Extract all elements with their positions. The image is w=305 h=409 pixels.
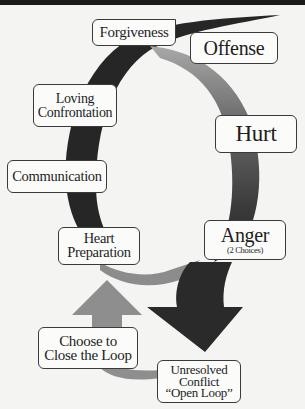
node-label-line: “Open Loop” xyxy=(165,387,232,399)
node-label-line: Confrontation xyxy=(38,106,113,119)
node-unresolved-conflict: Unresolved Conflict “Open Loop” xyxy=(157,360,241,403)
node-label-line: Choose to xyxy=(59,334,117,348)
node-heart-preparation: Heart Preparation xyxy=(58,227,140,265)
node-forgiveness: Forgiveness xyxy=(92,19,176,46)
node-label: Anger xyxy=(221,226,269,245)
node-label: Hurt xyxy=(236,123,277,145)
node-label: Offense xyxy=(204,39,265,58)
node-label-line: Loving xyxy=(56,92,95,105)
node-choose-to-close-the-loop: Choose to Close the Loop xyxy=(38,327,138,369)
node-label-line: Close the Loop xyxy=(44,348,131,362)
node-offense: Offense xyxy=(190,32,278,64)
node-hurt: Hurt xyxy=(215,115,297,153)
node-label-line: Preparation xyxy=(67,246,131,260)
node-loving-confrontation: Loving Confrontation xyxy=(33,84,117,127)
up-arrow xyxy=(72,280,142,330)
node-subtitle: (2 Choices) xyxy=(227,246,263,254)
node-label: Communication xyxy=(12,170,102,184)
node-anger: Anger (2 Choices) xyxy=(204,220,286,260)
node-label: Forgiveness xyxy=(100,25,169,39)
node-communication: Communication xyxy=(7,160,107,193)
